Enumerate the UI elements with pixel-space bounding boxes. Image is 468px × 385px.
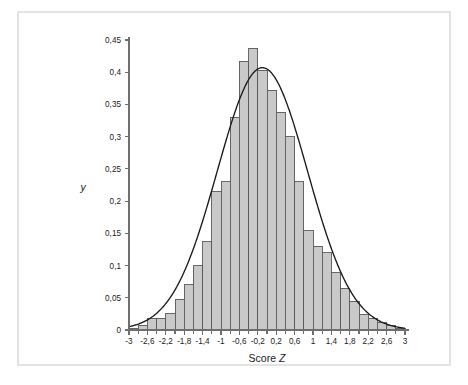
y-axis-tick-label: 0,25 [105, 165, 121, 174]
x-axis-tick-label: -3 [125, 337, 133, 346]
histogram-bar [368, 318, 377, 330]
x-axis-tick-label: 2,6 [381, 337, 393, 346]
histogram-bar [341, 288, 350, 330]
histogram-bar [193, 266, 202, 330]
x-axis-tick-label: -0,2 [251, 337, 266, 346]
x-axis-tick-label: -2,2 [159, 337, 174, 346]
y-axis-tick-label: 0,2 [110, 197, 122, 206]
histogram-bar [249, 48, 258, 330]
figure-frame: 00,050,10,150,20,250,30,350,40,45-3-2,6-… [17, 11, 451, 366]
y-axis-tick-label: 0 [116, 326, 121, 335]
histogram-bar [350, 301, 359, 330]
histogram-bar [276, 112, 285, 330]
x-axis-title: Score Z [249, 352, 286, 364]
y-axis-tick-label: 0,15 [105, 229, 121, 238]
x-axis-tick-label: -2,6 [140, 337, 155, 346]
y-axis-tick-label: 0,05 [105, 294, 121, 303]
histogram-bar [147, 318, 156, 330]
x-axis-tick-label: -1 [217, 337, 225, 346]
histogram-bar [285, 137, 294, 330]
y-axis-ticks: 00,050,10,150,20,250,30,350,40,45 [105, 36, 129, 335]
histogram-bar [295, 182, 304, 330]
histogram-bar [313, 246, 322, 330]
histogram-bar [258, 70, 267, 330]
histogram-bar [331, 273, 340, 330]
x-axis-tick-label: -1,8 [177, 337, 192, 346]
x-axis-tick-label: 1,4 [326, 337, 338, 346]
histogram-chart: 00,050,10,150,20,250,30,350,40,45-3-2,6-… [19, 13, 449, 364]
x-axis-tick-label: -0,6 [232, 337, 247, 346]
x-axis-tick-label: 2,2 [363, 337, 375, 346]
x-axis-tick-label: -1,4 [196, 337, 211, 346]
y-axis-tick-label: 0,4 [110, 68, 122, 77]
y-axis-title: y [79, 181, 86, 193]
histogram-bar [230, 117, 239, 330]
histogram-bar [267, 90, 276, 330]
y-axis-tick-label: 0,3 [110, 133, 122, 142]
histogram-bar [304, 231, 313, 330]
histogram-bar [239, 61, 248, 330]
histogram-bar [212, 191, 221, 330]
histogram-bar [184, 285, 193, 330]
x-axis-tick-label: 3 [403, 337, 408, 346]
x-axis-ticks: -3-2,6-2,2-1,8-1,4-1-0,6-0,20,20,611,41,… [125, 330, 407, 346]
y-axis-tick-label: 0,35 [105, 100, 121, 109]
figure-root: 00,050,10,150,20,250,30,350,40,45-3-2,6-… [0, 0, 468, 385]
histogram-bar [138, 325, 147, 330]
x-axis-tick-label: 1,8 [344, 337, 356, 346]
histogram-bar [203, 242, 212, 330]
histogram-bar [166, 314, 175, 330]
histogram-bar [157, 318, 166, 330]
x-axis-tick-label: 1 [311, 337, 316, 346]
y-axis-tick-label: 0,1 [110, 262, 122, 271]
histogram-bar [359, 315, 368, 330]
x-axis-tick-label: 0,2 [271, 337, 283, 346]
histogram-bars [129, 48, 405, 330]
y-axis-tick-label: 0,45 [105, 36, 121, 45]
x-axis-tick-label: 0,6 [289, 337, 301, 346]
histogram-bar [175, 299, 184, 330]
histogram-bar [221, 182, 230, 330]
histogram-bar [322, 253, 331, 330]
